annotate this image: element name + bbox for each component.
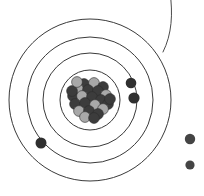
electron-shell3-lower-left: [36, 138, 47, 149]
nucleon-neutron-23: [72, 77, 83, 88]
electron-shell2-right: [128, 92, 139, 103]
atom-diagram-canvas: [0, 0, 204, 196]
electron-shell3-upper-right: [126, 78, 137, 89]
atom-diagram: [0, 0, 204, 196]
nucleon-proton-22: [105, 94, 116, 105]
nucleon-proton-20: [89, 113, 100, 124]
free-particle-upper: [185, 134, 195, 144]
free-particle-lower: [185, 160, 194, 169]
